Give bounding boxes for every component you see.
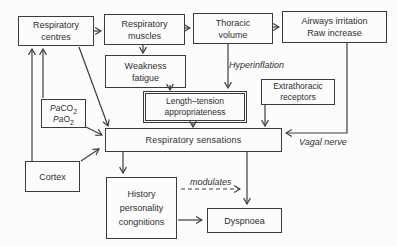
box-extrathoracic-receptors-line1: Extrathoracic (273, 81, 323, 92)
box-extrathoracic-receptors: Extrathoracic receptors (261, 79, 335, 105)
label-modulates: modulates (190, 177, 232, 187)
box-history-line3: congnitions (119, 215, 165, 229)
paco2-line: PaCO2 (50, 103, 77, 114)
box-respiratory-centres: Respiratory centres (18, 16, 94, 46)
box-thoracic-volume-line2: volume (218, 29, 247, 41)
box-dyspnoea: Dyspnoea (207, 208, 282, 233)
box-airways-irritation-line1: Airways irritation (301, 15, 367, 27)
box-airways-irritation-line2: Raw increase (307, 27, 362, 39)
box-cortex: Cortex (25, 161, 80, 192)
box-thoracic-volume: Thoracic volume (193, 13, 273, 44)
label-vagal-nerve: Vagal nerve (299, 137, 347, 147)
box-respiratory-sensations: Respiratory sensations (105, 128, 282, 152)
box-history-personality: History personality congnitions (106, 177, 177, 239)
paco2-prefix: Pa (50, 103, 60, 113)
box-airways-irritation: Airways irritation Raw increase (282, 11, 387, 43)
label-hyperinflation: Hyperinflation (229, 60, 284, 70)
box-respiratory-muscles: Respiratory muscles (104, 14, 185, 45)
box-length-tension: Length–tension appropriateness (143, 91, 247, 123)
box-cortex-label: Cortex (39, 171, 66, 183)
box-respiratory-sensations-label: Respiratory sensations (146, 134, 242, 146)
box-respiratory-centres-line2: centres (41, 31, 71, 43)
pao2-prefix: Pa (53, 114, 63, 124)
arrow-cortex-to-sensations (81, 149, 99, 161)
pao2-sub: 2 (70, 118, 74, 125)
flow-diagram: Respiratory centres Respiratory muscles … (0, 0, 397, 246)
box-weakness-fatigue-line2: fatigue (132, 72, 159, 84)
box-history-line1: History (127, 187, 155, 201)
box-weakness-fatigue-line1: Weakness (125, 60, 167, 72)
box-thoracic-volume-line1: Thoracic (216, 17, 251, 29)
paco2-main: CO (60, 103, 73, 113)
arrow-paco2-to-sensations (86, 127, 102, 135)
pao2-line: PaO2 (53, 114, 74, 125)
box-respiratory-centres-line1: Respiratory (33, 19, 79, 31)
box-extrathoracic-receptors-line2: receptors (280, 92, 315, 103)
box-paco2-pao2: PaCO2 PaO2 (41, 99, 86, 128)
box-dyspnoea-label: Dyspnoea (224, 215, 265, 227)
box-weakness-fatigue: Weakness fatigue (105, 55, 186, 88)
box-length-tension-line1: Length–tension (166, 96, 224, 107)
box-history-line2: personality (120, 201, 164, 215)
box-length-tension-line2: appropriateness (165, 107, 226, 118)
box-respiratory-muscles-line1: Respiratory (121, 18, 167, 30)
box-respiratory-muscles-line2: muscles (128, 30, 161, 42)
